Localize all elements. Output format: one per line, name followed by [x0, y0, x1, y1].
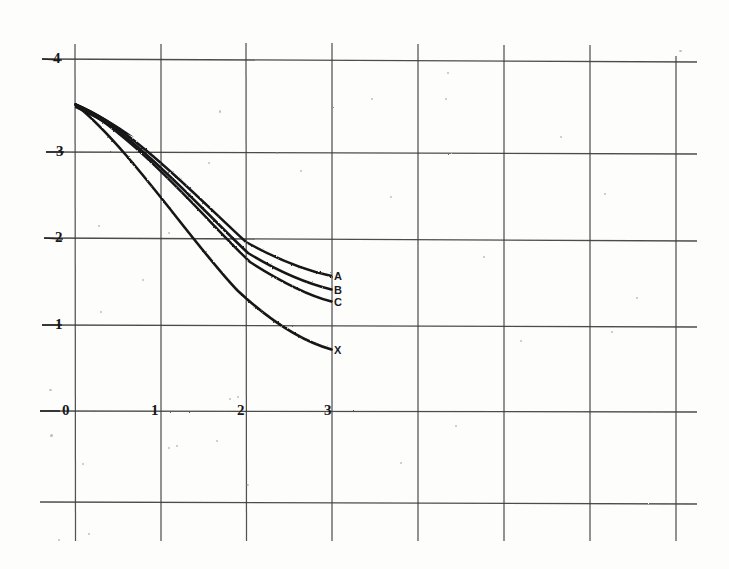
x-tick-label-2: 2 [237, 403, 245, 418]
x-tick-label-0: 0 [62, 403, 70, 418]
curve-x [76, 105, 332, 350]
y-tick-label-4: 4 [53, 51, 61, 66]
curve-b [76, 105, 332, 290]
gridline-y-2 [44, 238, 697, 241]
curve-label-a: A [334, 271, 342, 282]
x-tick-label-1: 1 [151, 403, 159, 418]
gridline-y-4 [42, 59, 697, 62]
grid-vertical-lines [75, 43, 676, 541]
scanned-page: 4 3 2 1 0 1 2 3 A B C X [0, 0, 729, 569]
chart-canvas [0, 0, 729, 569]
gridline-y-0 [40, 411, 697, 412]
y-tick-label-1: 1 [55, 317, 63, 332]
y-tick-label-3: 3 [56, 144, 64, 159]
data-curves [76, 105, 332, 350]
grid-horizontal-lines [40, 59, 697, 504]
curve-label-x: X [334, 345, 341, 356]
y-tick-label-2: 2 [55, 230, 63, 245]
gridline-y-1 [42, 325, 697, 327]
gridline-y-bottom [40, 502, 697, 504]
x-tick-label-3: 3 [324, 403, 332, 418]
curve-label-c: C [334, 297, 342, 308]
curve-label-b: B [334, 285, 342, 296]
